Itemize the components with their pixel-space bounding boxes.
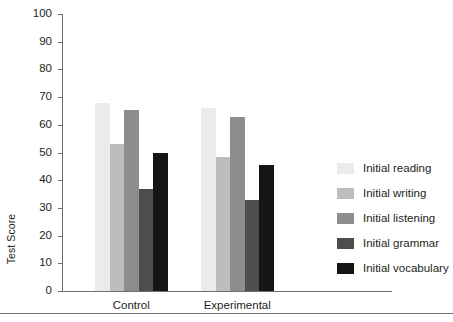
y-axis-tick: 30: [62, 208, 63, 209]
y-axis-tick-mark: [58, 208, 62, 209]
bar: [230, 117, 245, 292]
plot-area: 0102030405060708090100 ControlExperiment…: [62, 14, 392, 292]
y-axis-tick-mark: [58, 236, 62, 237]
bar: [153, 153, 168, 292]
y-axis-tick: 10: [62, 263, 63, 264]
x-axis-group-label: Control: [71, 299, 191, 311]
legend-swatch-icon: [337, 263, 354, 274]
y-axis-tick-mark: [58, 97, 62, 98]
y-axis-tick: 80: [62, 69, 63, 70]
y-axis-tick: 40: [62, 180, 63, 181]
y-axis-tick-mark: [58, 69, 62, 70]
y-axis-tick-label: 20: [14, 230, 52, 242]
legend-swatch-icon: [337, 213, 354, 224]
bar: [95, 103, 110, 291]
x-axis-group-label: Experimental: [177, 299, 297, 311]
y-axis-tick-label: 50: [14, 147, 52, 159]
bar: [245, 200, 260, 291]
y-axis-tick-label: 40: [14, 174, 52, 186]
y-axis-tick: 90: [62, 42, 63, 43]
bar: [124, 110, 139, 291]
y-axis-tick: 0: [62, 291, 63, 292]
y-axis-tick-mark: [58, 180, 62, 181]
y-axis-tick: 60: [62, 125, 63, 126]
bar: [216, 157, 231, 291]
y-axis-tick: 50: [62, 153, 63, 154]
y-axis-tick-label: 100: [14, 8, 52, 20]
y-axis-tick-label: 30: [14, 202, 52, 214]
legend-item-label: Initial reading: [363, 159, 431, 178]
y-axis-tick-label: 60: [14, 119, 52, 131]
bar: [110, 144, 125, 291]
y-axis-tick-label: 80: [14, 63, 52, 75]
x-axis-line: [62, 291, 392, 292]
y-axis-tick-mark: [58, 291, 62, 292]
legend-item-label: Initial grammar: [363, 234, 439, 253]
legend-item-label: Initial vocabulary: [363, 259, 449, 278]
bar: [201, 108, 216, 291]
legend-swatch-icon: [337, 188, 354, 199]
footer-divider: [0, 313, 453, 314]
y-axis-tick-label: 10: [14, 257, 52, 269]
y-axis-tick-label: 70: [14, 91, 52, 103]
y-axis-tick-label: 90: [14, 36, 52, 48]
y-axis-tick: 20: [62, 236, 63, 237]
bar: [139, 189, 154, 291]
legend-item-label: Initial writing: [363, 184, 426, 203]
legend-swatch-icon: [337, 238, 354, 249]
y-axis-tick: 100: [62, 14, 63, 15]
y-axis-tick-mark: [58, 153, 62, 154]
bar: [259, 165, 274, 291]
legend-swatch-icon: [337, 163, 354, 174]
y-axis-tick-label: 0: [14, 285, 52, 297]
y-axis-tick-mark: [58, 42, 62, 43]
y-axis-tick: 70: [62, 97, 63, 98]
y-axis-tick-mark: [58, 263, 62, 264]
bar-chart-figure: Test Score 0102030405060708090100 Contro…: [0, 0, 453, 322]
y-axis-tick-mark: [58, 125, 62, 126]
legend-item-label: Initial listening: [363, 209, 435, 228]
y-axis-tick-mark: [58, 14, 62, 15]
